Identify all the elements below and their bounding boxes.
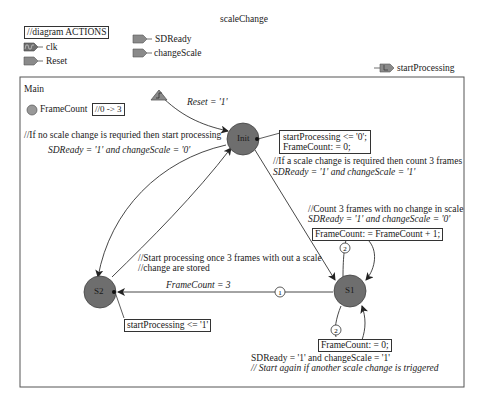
s2-actions-box[interactable]: startProcessing <= '1' — [124, 319, 211, 332]
init-action-2: FrameCount: = 0; — [283, 142, 367, 152]
state-init-label: Init — [237, 133, 250, 143]
s1-reset-action[interactable]: FrameCount: = 0; — [318, 339, 392, 352]
state-s2-label: S2 — [94, 286, 104, 296]
main-label: Main — [24, 84, 44, 94]
init-s2-condition[interactable]: SDReady = '1' and changeScale = '0' — [48, 145, 190, 155]
output-port-icon — [374, 64, 394, 72]
s1-s2-comment-2: //change are stored — [138, 263, 210, 273]
init-s1-condition[interactable]: SDReady = '1' and changeScale = '1' — [273, 167, 415, 177]
changescale-port-icon — [133, 49, 152, 57]
reset-condition[interactable]: Reset = '1' — [187, 97, 228, 107]
actions-box[interactable]: //diagram ACTIONS — [24, 26, 109, 39]
input-reset-label[interactable]: Reset — [46, 56, 67, 66]
s1-s2-condition[interactable]: FrameCount = 3 — [166, 280, 230, 290]
init-actions-box[interactable]: startProcessing <= '0'; FrameCount: = 0; — [279, 130, 371, 154]
output-startprocessing-label[interactable]: startProcessing — [397, 63, 455, 73]
s1-count-condition[interactable]: SDReady = '1' and changeScale = '0' — [308, 214, 450, 224]
init-action-1: startProcessing <= '0'; — [283, 132, 367, 142]
reset-entry-icon — [151, 90, 167, 100]
variable-icon — [27, 105, 37, 115]
variable-name[interactable]: FrameCount — [40, 104, 88, 114]
init-s1-comment: //If a scale change is required then cou… — [273, 156, 462, 166]
state-s1-label: S1 — [345, 285, 355, 295]
s1-s2-comment-1: //Start processing once 3 frames with ou… — [138, 253, 322, 263]
variable-range[interactable]: //0 -> 3 — [92, 103, 125, 116]
clock-port-icon — [24, 43, 43, 51]
diagram-title: scaleChange — [220, 14, 268, 24]
diagram-canvas: 1 2 2 — [0, 0, 482, 406]
svg-text:1: 1 — [278, 289, 282, 297]
svg-text:2: 2 — [343, 245, 347, 253]
init-s2-comment: //If no scale change is requried then st… — [24, 130, 221, 140]
reset-port-icon — [24, 57, 43, 65]
s1-reset-comment: // Start again if another scale change i… — [251, 363, 439, 373]
input-changescale-label[interactable]: changeScale — [154, 48, 201, 58]
s1-count-action[interactable]: FrameCount: = FrameCount + 1; — [312, 228, 443, 241]
input-clk-label[interactable]: clk — [46, 42, 58, 52]
input-sdready-label[interactable]: SDReady — [155, 34, 191, 44]
s1-reset-condition[interactable]: SDReady = '1' and changeScale = '1' — [251, 353, 390, 363]
s1-count-comment: //Count 3 frames with no change in scale — [308, 204, 463, 214]
sdready-port-icon — [133, 35, 152, 43]
svg-text:2: 2 — [334, 327, 338, 335]
